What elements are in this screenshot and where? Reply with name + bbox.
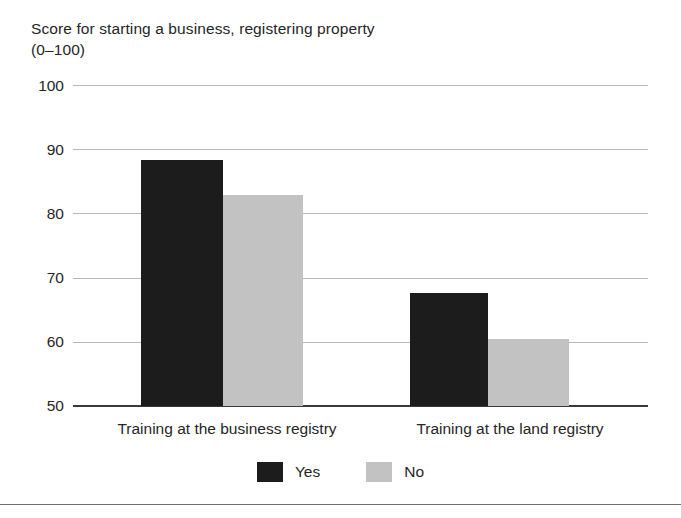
legend-item-no: No — [366, 462, 424, 482]
chart-title-line-1: Score for starting a business, registeri… — [31, 20, 375, 37]
gridline-100 — [73, 85, 648, 86]
chart-title: Score for starting a business, registeri… — [31, 18, 591, 60]
y-axis-tick-label-60: 60 — [16, 334, 64, 350]
bar-business-registry-yes — [141, 160, 223, 406]
x-axis-category-label-land-registry: Training at the land registry — [370, 420, 650, 438]
y-axis-tick-label-70: 70 — [16, 270, 64, 286]
plot-area — [73, 85, 648, 406]
chart-legend: Yes No — [0, 462, 681, 482]
legend-label-yes: Yes — [295, 463, 320, 481]
chart-title-line-2: (0–100) — [31, 41, 85, 58]
y-axis-tick-label-80: 80 — [16, 206, 64, 222]
x-axis-category-label-business-registry: Training at the business registry — [82, 420, 372, 438]
chart-figure: Score for starting a business, registeri… — [0, 0, 681, 518]
y-axis-tick-label-90: 90 — [16, 142, 64, 158]
legend-label-no: No — [404, 463, 424, 481]
bar-business-registry-no — [223, 195, 303, 406]
y-axis-tick-label-50: 50 — [16, 398, 64, 414]
gridline-90 — [73, 149, 648, 150]
bar-land-registry-no — [488, 339, 569, 406]
legend-swatch-no-icon — [366, 462, 392, 482]
legend-item-yes: Yes — [257, 462, 320, 482]
bottom-divider — [0, 504, 681, 505]
legend-swatch-yes-icon — [257, 462, 283, 482]
y-axis-tick-label-100: 100 — [16, 78, 64, 94]
bar-land-registry-yes — [410, 293, 488, 406]
